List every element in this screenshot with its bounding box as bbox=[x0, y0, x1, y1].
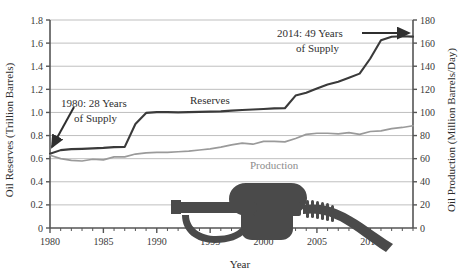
left-tick-label: 0 bbox=[38, 223, 43, 234]
right-tick-label: 60 bbox=[420, 153, 430, 164]
annotation-arrows bbox=[52, 33, 409, 147]
right-tick-label: 160 bbox=[420, 38, 435, 49]
x-tick-label: 1980 bbox=[40, 236, 60, 247]
right-tick-label: 180 bbox=[420, 15, 435, 26]
x-tick-label: 2005 bbox=[307, 236, 327, 247]
series-line-production bbox=[50, 126, 413, 161]
left-tick-label: 1.2 bbox=[31, 84, 44, 95]
right-tick-label: 20 bbox=[420, 199, 430, 210]
left-tick-label: 0.4 bbox=[31, 176, 44, 187]
annotation-arrow-1980 bbox=[52, 107, 74, 147]
x-axis-title: Year bbox=[230, 258, 251, 270]
series-line-reserves bbox=[50, 36, 413, 154]
annotation-2014-line2: of Supply bbox=[296, 42, 340, 54]
annotation-1980-line2: of Supply bbox=[74, 112, 118, 124]
right-tick-label: 140 bbox=[420, 61, 435, 72]
x-tick-label: 1985 bbox=[93, 236, 113, 247]
left-tick-label: 1.0 bbox=[31, 107, 44, 118]
left-tick-label: 1.4 bbox=[31, 61, 44, 72]
annotation-2014-line1: 2014: 49 Years bbox=[277, 27, 343, 39]
series-label-reserves: Reserves bbox=[190, 94, 230, 106]
right-tick-label: 100 bbox=[420, 107, 435, 118]
left-tick-label: 0.2 bbox=[31, 199, 44, 210]
left-tick-label: 0.8 bbox=[31, 130, 44, 141]
right-tick-label: 80 bbox=[420, 130, 430, 141]
series-label-production: Production bbox=[250, 159, 299, 171]
left-tick-label: 0.6 bbox=[31, 153, 44, 164]
annotation-1980-line1: 1980: 28 Years bbox=[61, 97, 127, 109]
right-axis-ticks: 020406080100120140160180 bbox=[413, 15, 435, 234]
chart-canvas: 00.20.40.60.81.01.21.41.61.8 02040608010… bbox=[0, 0, 465, 274]
oil-reserves-production-chart: 00.20.40.60.81.01.21.41.61.8 02040608010… bbox=[0, 0, 465, 274]
left-tick-label: 1.8 bbox=[31, 15, 44, 26]
right-tick-label: 120 bbox=[420, 84, 435, 95]
x-tick-label: 1990 bbox=[147, 236, 167, 247]
y2-axis-title: Oil Production (Million Barrels/Day) bbox=[445, 48, 458, 212]
y-axis-title: Oil Reserves (Trillion Barrels) bbox=[3, 63, 16, 198]
right-tick-label: 40 bbox=[420, 176, 430, 187]
left-tick-label: 1.6 bbox=[31, 38, 44, 49]
right-tick-label: 0 bbox=[420, 223, 425, 234]
left-axis-ticks: 00.20.40.60.81.01.21.41.61.8 bbox=[31, 15, 51, 234]
